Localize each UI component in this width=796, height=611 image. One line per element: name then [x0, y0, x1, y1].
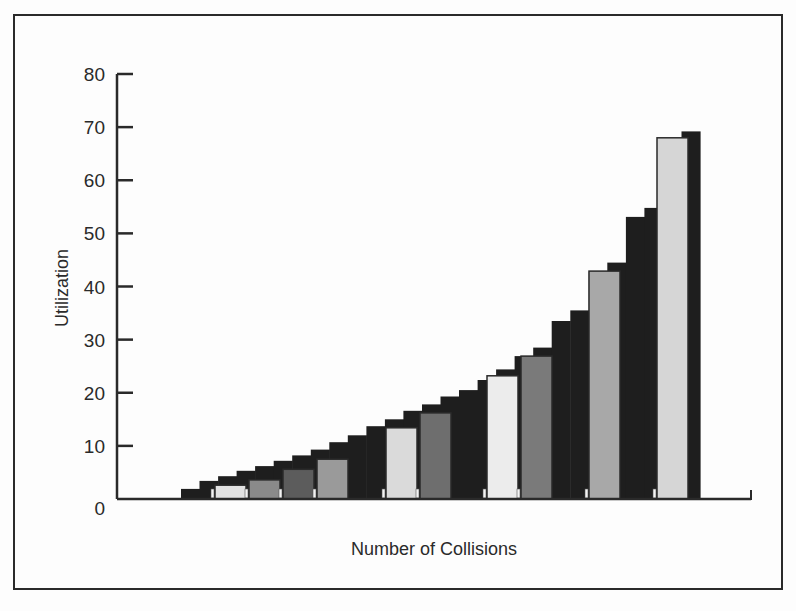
y-axis-ticks: 01020304050607080 [84, 64, 133, 519]
bar-base-marker [517, 489, 520, 498]
foreground-bars [211, 138, 688, 499]
bar-base-marker [653, 489, 656, 498]
y-tick-label: 30 [84, 330, 105, 351]
staircase-step [181, 489, 200, 499]
x-axis-title: Number of Collisions [351, 539, 517, 560]
bar [317, 459, 348, 499]
staircase-step [348, 435, 367, 499]
bar [420, 413, 451, 499]
bar-base-marker [279, 489, 282, 498]
bar-base-marker [585, 489, 588, 498]
bar [487, 376, 518, 499]
bar-base-marker [313, 489, 316, 498]
y-tick-label: 80 [84, 64, 105, 85]
y-axis-title: Utilization [52, 249, 73, 327]
bar-base-marker [382, 489, 385, 498]
bar [386, 428, 417, 499]
y-tick-label: 60 [84, 170, 105, 191]
staircase-step [570, 310, 589, 499]
bar-base-marker [483, 489, 486, 498]
bar-base-marker [416, 489, 419, 498]
staircase-step [366, 426, 385, 499]
bar [521, 356, 552, 499]
bar [215, 485, 246, 499]
y-tick-label: 70 [84, 117, 105, 138]
y-tick-label: 0 [94, 498, 105, 519]
y-tick-label: 20 [84, 383, 105, 404]
y-tick-label: 10 [84, 436, 105, 457]
bar-chart: 01020304050607080 [0, 0, 796, 611]
bar-base-marker [245, 489, 248, 498]
bar [657, 138, 688, 499]
bar [589, 271, 620, 499]
bar [283, 469, 314, 499]
staircase-step [552, 321, 571, 499]
bar [249, 480, 280, 499]
staircase-step [626, 217, 645, 499]
staircase-step [459, 390, 478, 499]
bar-base-marker [211, 489, 214, 498]
y-tick-label: 50 [84, 223, 105, 244]
y-tick-label: 40 [84, 277, 105, 298]
